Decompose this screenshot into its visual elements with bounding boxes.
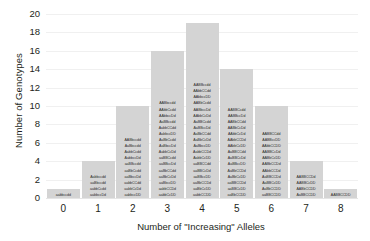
bar-6[interactable]: AABBCCddAABBccDDAAbbCCDDAABBCcDdAABbCcDD…: [255, 106, 288, 198]
genotype-label: aabbCCDD: [193, 192, 211, 198]
x-tick-label: 2: [115, 203, 150, 214]
bar-3[interactable]: AABbccddAAbbCcddAAbbccDdAaBBccddAabbCCdd…: [151, 51, 184, 198]
x-tick-label: 8: [323, 203, 358, 214]
y-tick-label: 14: [0, 64, 40, 74]
bar-5[interactable]: AABBCcddAABBccDdAABbCCddAABbCcDdAAbbCcDd…: [220, 69, 253, 198]
gridline-20: [46, 14, 358, 15]
y-tick-label: 12: [0, 83, 40, 93]
genotype-distribution-chart: Number of Genotypes Number of "Increasin…: [0, 0, 370, 241]
plot-area: aabbccddAabbccddaaBbccddaabbCcddaabbccDd…: [46, 14, 358, 199]
y-tick-label: 18: [0, 27, 40, 37]
x-tick-label: 0: [46, 203, 81, 214]
genotype-label: aaBbCCDD: [227, 192, 245, 198]
x-tick-label: 7: [289, 203, 324, 214]
y-tick-label: 0: [0, 193, 40, 203]
genotype-label: AaBBCCDD: [296, 192, 315, 198]
genotype-label: aaBBCCDD: [262, 192, 281, 198]
x-tick-label: 5: [219, 203, 254, 214]
axis-baseline: [46, 198, 358, 199]
bar-0[interactable]: aabbccdd: [47, 189, 80, 198]
bar-4[interactable]: AABBccddAAbbCCddAAbbccDDAABbCcddAABbccDd…: [186, 23, 219, 198]
genotype-label: aabbccdd: [56, 192, 71, 198]
genotype-label: aabbccDD: [124, 192, 140, 198]
y-tick-label: 20: [0, 9, 40, 19]
bar-8[interactable]: AABBCCDD: [324, 189, 357, 198]
y-tick-label: 10: [0, 101, 40, 111]
genotype-label: AABBCCDD: [331, 192, 351, 198]
x-tick-label: 4: [185, 203, 220, 214]
x-tick-label: 6: [254, 203, 289, 214]
genotype-label: aabbCcDD: [159, 192, 176, 198]
x-tick-label: 1: [81, 203, 116, 214]
y-tick-label: 8: [0, 119, 40, 129]
y-tick-label: 4: [0, 156, 40, 166]
genotype-label: aabbccDd: [90, 192, 106, 198]
y-tick-label: 6: [0, 138, 40, 148]
bar-2[interactable]: AABbccddAaBbccddAabbCcddAabbccDdaaBBccdd…: [116, 106, 149, 198]
x-tick-label: 3: [150, 203, 185, 214]
y-tick-label: 2: [0, 175, 40, 185]
bar-7[interactable]: AABBCCDdAABBCcDDAABbCCDDAaBBCCDD: [290, 161, 323, 198]
bar-1[interactable]: AabbccddaaBbccddaabbCcddaabbccDd: [82, 161, 115, 198]
x-axis-title: Number of "Increasing" Alleles: [46, 221, 356, 232]
y-tick-label: 16: [0, 46, 40, 56]
